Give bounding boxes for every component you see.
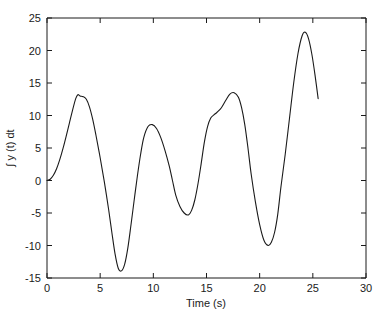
x-tick-label: 30 bbox=[360, 282, 372, 294]
x-tick-label: 0 bbox=[44, 282, 50, 294]
y-tick-label: 10 bbox=[29, 110, 41, 122]
chart-figure: 051015202530 -15-10-50510152025 Time (s)… bbox=[0, 0, 391, 324]
y-tick-label: 0 bbox=[35, 175, 41, 187]
y-tick-label: 25 bbox=[29, 12, 41, 24]
x-axis-title: Time (s) bbox=[186, 297, 226, 309]
x-tick-label: 5 bbox=[97, 282, 103, 294]
y-tick-label: -15 bbox=[25, 272, 41, 284]
y-tick-label: -5 bbox=[31, 207, 41, 219]
y-tick-label: 15 bbox=[29, 77, 41, 89]
y-tick-label: -10 bbox=[25, 240, 41, 252]
x-tick-label: 10 bbox=[147, 282, 159, 294]
line-chart-plot: 051015202530 -15-10-50510152025 Time (s)… bbox=[0, 0, 391, 324]
y-tick-label: 5 bbox=[35, 142, 41, 154]
y-axis-title: ∫ y (t) dt bbox=[4, 129, 17, 167]
x-tick-label: 15 bbox=[200, 282, 212, 294]
x-tick-label: 20 bbox=[254, 282, 266, 294]
y-tick-label: 20 bbox=[29, 45, 41, 57]
x-tick-label: 25 bbox=[307, 282, 319, 294]
